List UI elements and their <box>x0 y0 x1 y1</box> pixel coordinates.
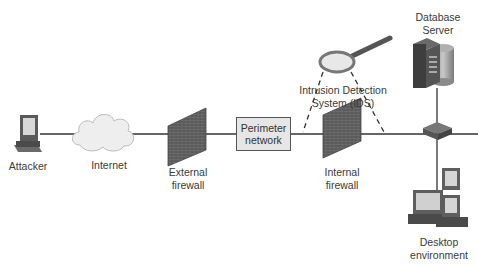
internal-firewall-label: Internal firewall <box>320 166 364 191</box>
perimeter-network-box: Perimeter network <box>236 117 291 151</box>
external-firewall-icon <box>168 108 206 166</box>
ids-label: Intrusion Detection System (IDS) <box>296 84 390 109</box>
external-firewall-label: External firewall <box>160 166 216 191</box>
network-switch-icon <box>423 122 452 140</box>
magnifying-glass-icon <box>320 38 390 72</box>
desktop-computers-icon <box>408 168 468 227</box>
attacker-label: Attacker <box>8 160 48 173</box>
internet-label: Internet <box>87 159 131 172</box>
desktop-environment-label: Desktop environment <box>406 236 472 261</box>
attacker-computer-icon <box>14 115 42 152</box>
internet-cloud-icon <box>72 114 133 151</box>
database-server-label: Database Server <box>408 11 468 36</box>
database-server-icon <box>413 38 454 88</box>
